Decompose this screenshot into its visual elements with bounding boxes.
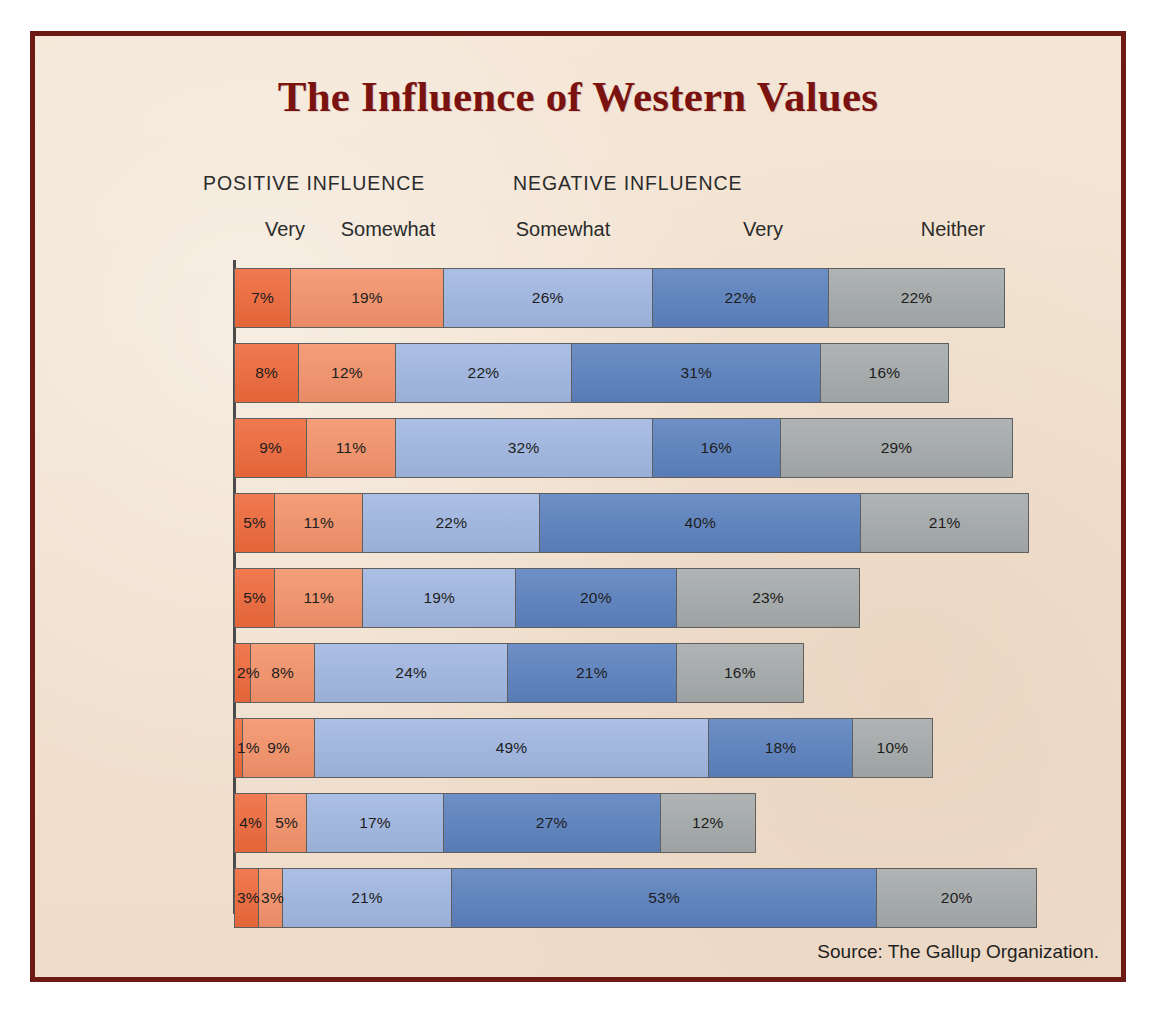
bar-segment-value: 3% (261, 889, 284, 907)
bar-segment-very-positive: 3% (234, 868, 258, 928)
bar-segment-very-positive: 2% (234, 643, 250, 703)
bar-segment-value: 27% (536, 814, 568, 832)
bar-segment-somewhat-positive: 11% (274, 568, 362, 628)
bar-segment-value: 23% (752, 589, 784, 607)
bar-segment-very-negative: 31% (571, 343, 820, 403)
bar-segment-neither: 20% (876, 868, 1037, 928)
row-label-kuwait: Kuwait (30, 286, 31, 310)
bar-segment-value: 22% (725, 289, 757, 307)
bar-segment-value: 21% (351, 889, 383, 907)
bar-segment-somewhat-positive: 5% (266, 793, 306, 853)
stacked-bar: 1%9%49%18%10% (234, 718, 933, 778)
bar-segment-value: 21% (576, 664, 608, 682)
bar-segment-very-positive: 5% (234, 493, 274, 553)
bar-segment-value: 10% (877, 739, 909, 757)
bar-segment-value: 11% (304, 514, 334, 532)
table-row: Lebanon5%11%22%40%21% (35, 493, 1121, 553)
bar-segment-value: 21% (929, 514, 961, 532)
table-row: Morocco1%9%49%18%10% (35, 718, 1121, 778)
bar-segment-somewhat-negative: 26% (443, 268, 652, 328)
stacked-bar: 4%5%17%27%12% (234, 793, 756, 853)
bar-segment-value: 31% (680, 364, 712, 382)
column-header-0: Very (265, 218, 305, 241)
bar-segment-very-negative: 16% (652, 418, 780, 478)
bar-segment-somewhat-positive: 3% (258, 868, 282, 928)
bar-segment-value: 29% (881, 439, 913, 457)
bar-segment-very-positive: 4% (234, 793, 266, 853)
bar-segment-value: 18% (765, 739, 797, 757)
bar-segment-value: 11% (304, 589, 334, 607)
bar-segment-somewhat-negative: 24% (314, 643, 507, 703)
bar-segment-value: 24% (395, 664, 427, 682)
bar-segment-value: 26% (532, 289, 564, 307)
table-row: Jordan3%3%21%53%20% (35, 868, 1121, 928)
bar-segment-somewhat-negative: 49% (314, 718, 707, 778)
bar-segment-value: 3% (237, 889, 260, 907)
bar-segment-very-negative: 27% (443, 793, 660, 853)
row-label-lebanon: Lebanon (30, 511, 31, 535)
bar-segment-value: 5% (243, 514, 266, 532)
bar-segment-value: 20% (580, 589, 612, 607)
bar-segment-somewhat-positive: 12% (298, 343, 394, 403)
bar-segment-value: 22% (901, 289, 933, 307)
row-label-saudi-arabia: Saudi Arabia (30, 361, 31, 385)
bar-segment-somewhat-positive: 11% (306, 418, 394, 478)
column-header-2: Somewhat (516, 218, 611, 241)
bar-segment-value: 8% (255, 364, 278, 382)
poster-frame: The Influence of Western Values POSITIVE… (30, 31, 1126, 982)
bar-segment-value: 16% (869, 364, 901, 382)
bar-segment-very-negative: 53% (451, 868, 877, 928)
stacked-bar: 5%11%22%40%21% (234, 493, 1029, 553)
bar-segment-very-negative: 22% (652, 268, 829, 328)
bar-segment-somewhat-positive: 11% (274, 493, 362, 553)
bar-segment-value: 5% (275, 814, 298, 832)
row-label-jordan: Jordan (30, 886, 31, 910)
stacked-bar: 5%11%19%20%23% (234, 568, 860, 628)
bar-segment-neither: 10% (852, 718, 932, 778)
bar-segment-very-positive: 8% (234, 343, 298, 403)
bar-segment-neither: 16% (676, 643, 804, 703)
bar-segment-value: 19% (423, 589, 455, 607)
stacked-bar: 3%3%21%53%20% (234, 868, 1037, 928)
bar-segment-very-positive: 7% (234, 268, 290, 328)
bar-segment-very-positive: 1% (234, 718, 242, 778)
bar-segment-value: 16% (700, 439, 732, 457)
bar-segment-value: 9% (267, 739, 290, 757)
bar-segment-very-negative: 18% (708, 718, 853, 778)
bar-segment-very-negative: 40% (539, 493, 860, 553)
bar-segment-value: 9% (259, 439, 282, 457)
bar-segment-somewhat-negative: 19% (362, 568, 515, 628)
column-header-4: Neither (921, 218, 985, 241)
bar-segment-value: 4% (239, 814, 262, 832)
bar-segment-very-positive: 9% (234, 418, 306, 478)
bar-segment-very-negative: 20% (515, 568, 676, 628)
row-label-turkey: Turkey (30, 661, 31, 685)
bar-segment-somewhat-negative: 32% (395, 418, 652, 478)
bar-segment-value: 1% (237, 739, 260, 757)
bar-segment-value: 53% (648, 889, 680, 907)
table-row: Turkey2%8%24%21%16% (35, 643, 1121, 703)
table-row: Indonesia9%11%32%16%29% (35, 418, 1121, 478)
bar-segment-somewhat-negative: 22% (362, 493, 539, 553)
bar-segment-neither: 21% (860, 493, 1029, 553)
bar-segment-value: 12% (331, 364, 363, 382)
bar-segment-value: 22% (468, 364, 500, 382)
column-header-1: Somewhat (341, 218, 436, 241)
bar-segment-neither: 23% (676, 568, 861, 628)
bar-segment-value: 8% (271, 664, 294, 682)
bar-segment-value: 40% (684, 514, 716, 532)
bar-segment-value: 11% (336, 439, 366, 457)
bar-segment-somewhat-negative: 22% (395, 343, 572, 403)
bar-segment-value: 17% (359, 814, 391, 832)
bar-segment-somewhat-negative: 17% (306, 793, 443, 853)
bar-segment-value: 32% (508, 439, 540, 457)
bar-segment-value: 5% (243, 589, 266, 607)
stacked-bar: 2%8%24%21%16% (234, 643, 804, 703)
chart-plot-area: VerySomewhatSomewhatVeryNeither Kuwait7%… (35, 36, 1121, 977)
table-row: Kuwait7%19%26%22%22% (35, 268, 1121, 328)
table-row: Iran5%11%19%20%23% (35, 568, 1121, 628)
bar-segment-value: 7% (251, 289, 274, 307)
table-row: Saudi Arabia8%12%22%31%16% (35, 343, 1121, 403)
row-label-indonesia: Indonesia (30, 436, 31, 460)
stacked-bar: 8%12%22%31%16% (234, 343, 949, 403)
